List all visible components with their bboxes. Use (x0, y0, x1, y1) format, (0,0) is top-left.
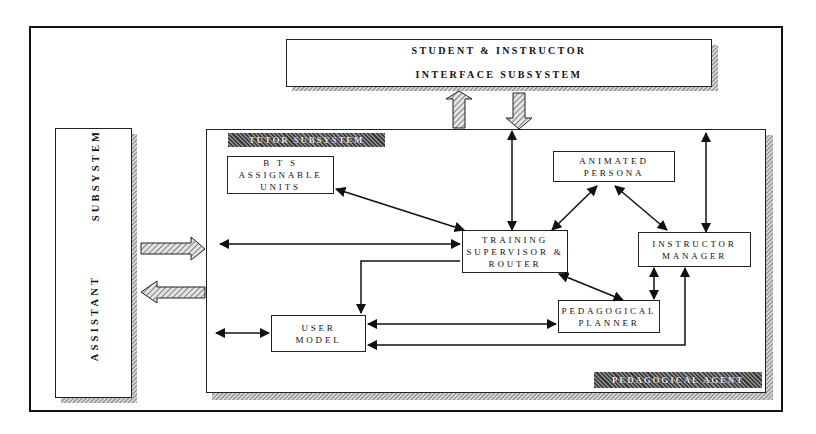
instructor-manager-node: INSTRUCTOR MANAGER (638, 232, 751, 267)
pedagogical-agent-label: PEDAGOGICAL AGENT (594, 372, 762, 388)
assistant-subsystem-label: ASSISTANT SUBSYSTEM (56, 129, 131, 397)
user-model-node: USER MODEL (271, 315, 366, 352)
interface-title-line1: STUDENT & INSTRUCTOR (412, 45, 587, 57)
subsystem-word: SUBSYSTEM (90, 120, 102, 230)
training-supervisor-router-node: TRAINING SUPERVISOR & ROUTER (462, 230, 568, 273)
interface-subsystem-title: STUDENT & INSTRUCTOR INTERFACE SUBSYSTEM (412, 33, 587, 93)
bts-assignable-units-node: B T S ASSIGNABLE UNITS (227, 156, 334, 194)
tutor-subsystem-label: TUTOR SUBSYSTEM (228, 133, 385, 147)
interface-title-line2: INTERFACE SUBSYSTEM (412, 69, 587, 81)
animated-persona-node: ANIMATED PERSONA (553, 151, 675, 182)
interface-subsystem-box: STUDENT & INSTRUCTOR INTERFACE SUBSYSTEM (286, 39, 712, 87)
assistant-word: ASSISTANT (89, 263, 101, 373)
assistant-subsystem-box: ASSISTANT SUBSYSTEM (55, 128, 132, 398)
pedagogical-planner-node: PEDAGOGICAL PLANNER (558, 300, 660, 333)
